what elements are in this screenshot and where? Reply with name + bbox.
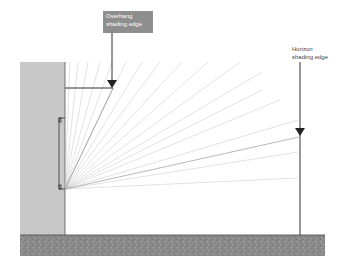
horizon-ray <box>65 137 299 189</box>
overhang-ray <box>65 88 113 189</box>
sun-rays <box>65 62 298 189</box>
overhang-label: Overhang shading edge <box>103 11 153 33</box>
shading-diagram <box>0 0 338 267</box>
horizon-arrowhead-icon <box>295 128 305 136</box>
wall <box>20 62 65 236</box>
ground <box>20 235 325 256</box>
horizon-label: Horizon shading edge <box>292 46 334 61</box>
